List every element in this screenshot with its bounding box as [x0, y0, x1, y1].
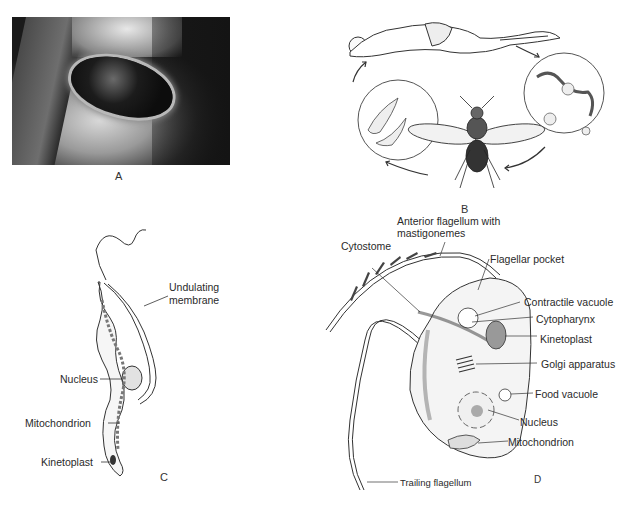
food-vacuole: [499, 389, 511, 401]
label-kinetoplast-d: Kinetoplast: [540, 333, 592, 345]
contractile-vacuole: [458, 308, 478, 328]
label-cytostome: Cytostome: [341, 240, 391, 252]
label-food-vacuole: Food vacuole: [535, 388, 598, 400]
label-anterior-flagellum-2: mastigonemes: [397, 227, 465, 239]
cell-body: [410, 278, 531, 458]
label-mitochondrion-d: Mitochondrion: [508, 436, 574, 448]
label-flagellar-pocket: Flagellar pocket: [490, 253, 564, 265]
panel-d-letter: D: [534, 474, 541, 485]
label-trailing-flagellum: Trailing flagellum: [400, 477, 471, 489]
label-anterior-flagellum-1: Anterior flagellum with: [397, 215, 500, 227]
label-golgi-apparatus: Golgi apparatus: [541, 358, 615, 370]
label-nucleus-d: Nucleus: [520, 416, 558, 428]
kinetoplast-d: [486, 321, 506, 349]
cropped-caption: [12, 496, 612, 507]
label-contractile-vacuole: Contractile vacuole: [524, 296, 613, 308]
label-cytopharynx: Cytopharynx: [536, 313, 595, 325]
